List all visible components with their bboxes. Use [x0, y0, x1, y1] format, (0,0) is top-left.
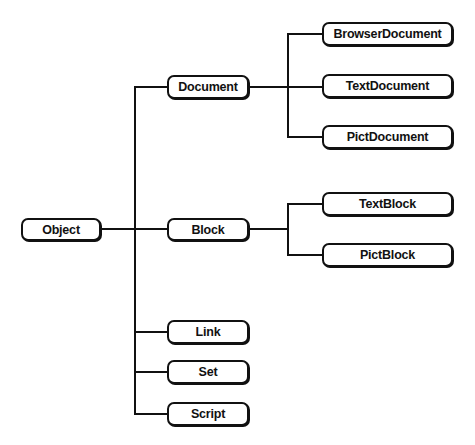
- connector-block-branch: [248, 228, 289, 230]
- connector-trunk-vertical: [134, 86, 136, 415]
- connector-document-vertical: [287, 33, 289, 138]
- node-set: Set: [167, 360, 249, 384]
- node-textblock: TextBlock: [322, 192, 453, 216]
- node-textdocument: TextDocument: [322, 74, 453, 98]
- node-document: Document: [167, 75, 249, 99]
- class-hierarchy-diagram: Object Document Block Link Set Script Br…: [0, 0, 475, 445]
- connector-to-browserdocument: [287, 33, 322, 35]
- connector-document-branch: [248, 86, 322, 88]
- node-link: Link: [167, 320, 249, 344]
- node-browserdocument: BrowserDocument: [322, 22, 453, 46]
- node-pictblock: PictBlock: [322, 243, 453, 267]
- connector-to-link: [134, 331, 167, 333]
- connector-to-document: [134, 86, 167, 88]
- connector-to-pictblock: [287, 254, 322, 256]
- connector-to-set: [134, 371, 167, 373]
- node-block: Block: [167, 218, 249, 241]
- connector-to-pictdocument: [287, 136, 322, 138]
- connector-block-vertical: [287, 203, 289, 255]
- node-pictdocument: PictDocument: [322, 125, 453, 149]
- connector-to-textblock: [287, 203, 322, 205]
- node-object: Object: [21, 218, 101, 241]
- connector-to-script: [134, 413, 167, 415]
- node-script: Script: [167, 402, 249, 426]
